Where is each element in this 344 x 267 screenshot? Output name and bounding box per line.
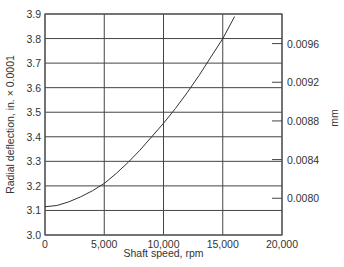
deflection-curve [45,17,235,207]
y-tick-label: 3.1 [26,204,41,216]
y-tick-label: 3.5 [26,106,41,118]
y2-tick-label: 0.0088 [287,115,319,127]
x-axis-label: Shaft speed, rpm [124,247,204,259]
y-tick-label: 3.6 [26,82,41,94]
y2-axis-label: mm [328,109,340,127]
y2-tick-label: 0.0080 [287,192,319,204]
y-tick-label: 3.2 [26,180,41,192]
chart: 3.03.13.23.33.43.53.63.73.83.905,00010,0… [0,0,344,267]
y2-tick-label: 0.0096 [287,38,319,50]
x-tick-label: 0 [42,238,48,250]
y-tick-label: 3.3 [26,155,41,167]
y2-tick-label: 0.0084 [287,154,319,166]
x-tick-label: 15,000 [207,238,239,250]
y-tick-label: 3.7 [26,57,41,69]
y-axis-label: Radial deflection, in. × 0.0001 [4,55,16,194]
x-tick-label: 20,000 [266,238,298,250]
y-tick-label: 3.0 [26,229,41,241]
y2-tick-label: 0.0092 [287,76,319,88]
y-tick-label: 3.4 [26,131,41,143]
y-tick-label: 3.8 [26,33,41,45]
y-tick-label: 3.9 [26,8,41,20]
x-tick-label: 5,000 [91,238,117,250]
